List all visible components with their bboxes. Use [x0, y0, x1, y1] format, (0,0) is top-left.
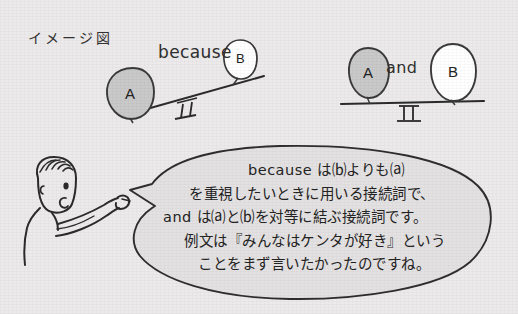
speech-line-1: because は⒝よりも⒜: [248, 158, 404, 179]
balloon-b-left-letter: B: [236, 51, 245, 66]
right-seesaw-group: [341, 44, 484, 121]
speaker-neck-right: [52, 213, 58, 230]
speech-line-2: を重視したいときに用いる接続詞で、: [189, 182, 435, 203]
balloon-a-right-letter: A: [363, 64, 373, 81]
speaker-ear: [40, 186, 44, 194]
balloon-a-left-letter: A: [125, 85, 135, 102]
right-seesaw-plank: [341, 101, 484, 104]
speaker-body-left: [24, 208, 40, 265]
page-title: イメージ図: [28, 27, 113, 47]
speaker-figure: [24, 157, 130, 265]
speaker-mouth: [60, 198, 68, 208]
speech-line-5: ことをまず言いたかったのですね。: [198, 252, 430, 273]
balloon-b-right-letter: B: [448, 63, 458, 80]
speaker-eye: [63, 183, 68, 190]
speaker-hand: [116, 196, 129, 209]
because-label: because: [158, 42, 232, 62]
right-seesaw-fulcrum: [397, 106, 421, 121]
speech-line-4: 例文は『みんなはケンタが好き』という: [184, 229, 445, 250]
and-label: and: [386, 58, 417, 77]
illustration-canvas: イメージ図 because and A B A B because は⒝よりも⒜…: [0, 0, 518, 314]
speech-line-3: and は⒜と⒝を対等に結ぶ接続詞です。: [163, 205, 428, 226]
